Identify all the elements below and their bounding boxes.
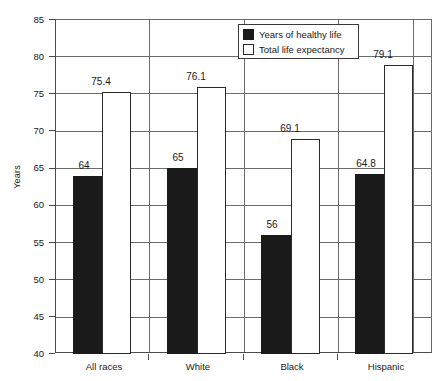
y-axis-title: Years — [12, 147, 22, 207]
bar-value-healthy-white: 65 — [150, 153, 206, 163]
y-tick-mark-40 — [49, 353, 55, 354]
y-tick-label-70: 70 — [0, 126, 44, 136]
group-divider-2 — [244, 20, 245, 352]
y-tick-label-85: 85 — [0, 15, 44, 25]
bar-value-healthy-hispanic: 64.8 — [338, 159, 394, 169]
plot-area — [55, 19, 432, 353]
y-tick-label-60: 60 — [0, 200, 44, 210]
bar-total-black — [291, 139, 320, 354]
legend-item-healthy-life: Years of healthy life — [243, 27, 355, 42]
bar-healthy-black — [261, 235, 294, 354]
bar-total-all-races — [102, 92, 131, 354]
bar-chart: Years 85 80 75 70 65 60 55 50 45 40 — [0, 0, 443, 381]
x-group-tick-2 — [243, 354, 244, 360]
bar-value-total-black: 69.1 — [262, 124, 318, 134]
group-divider-4 — [413, 20, 414, 352]
y-tick-label-55: 55 — [0, 238, 44, 248]
x-category-label-white: White — [162, 362, 234, 372]
chart-legend: Years of healthy life Total life expecta… — [238, 24, 359, 59]
group-divider-3 — [338, 20, 339, 352]
bar-value-total-hispanic: 79.1 — [355, 50, 411, 60]
bar-value-total-white: 76.1 — [168, 72, 224, 82]
y-tick-label-50: 50 — [0, 275, 44, 285]
y-tick-label-45: 45 — [0, 312, 44, 322]
bar-healthy-white — [167, 168, 200, 354]
y-tick-label-40: 40 — [0, 349, 44, 359]
legend-swatch-white-square-icon — [243, 44, 254, 55]
bar-total-hispanic — [384, 65, 413, 354]
legend-item-total-life-expectancy: Total life expectancy — [243, 42, 355, 57]
x-category-label-all-races: All races — [66, 362, 142, 372]
bar-value-total-all-races: 75.4 — [73, 77, 129, 87]
x-group-tick-3 — [337, 354, 338, 360]
x-category-label-black: Black — [256, 362, 328, 372]
y-tick-label-75: 75 — [0, 89, 44, 99]
legend-label-healthy-life: Years of healthy life — [259, 30, 342, 40]
bar-value-healthy-all-races: 64 — [56, 161, 112, 171]
group-divider-1 — [149, 20, 150, 352]
legend-label-total-life-expectancy: Total life expectancy — [259, 45, 345, 55]
y-tick-label-80: 80 — [0, 52, 44, 62]
x-category-label-hispanic: Hispanic — [348, 362, 424, 372]
y-tick-label-65: 65 — [0, 163, 44, 173]
bar-value-healthy-black: 56 — [244, 220, 300, 230]
bar-total-white — [197, 87, 226, 354]
legend-swatch-black-square-icon — [243, 29, 254, 40]
x-group-tick-1 — [148, 354, 149, 360]
